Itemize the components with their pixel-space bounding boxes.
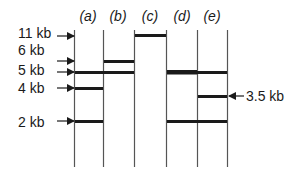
size-marker-right: 3.5 kb bbox=[229, 88, 284, 104]
lane-label-b: (b) bbox=[109, 8, 126, 24]
lane-lines bbox=[75, 30, 228, 167]
size-label-11kb: 11 kb bbox=[18, 25, 51, 41]
band-e-5kb bbox=[197, 71, 227, 74]
lane-label-a: (a) bbox=[79, 8, 96, 24]
band-ab-5kb bbox=[75, 71, 134, 74]
size-label-3-5kb: 3.5 kb bbox=[246, 88, 284, 104]
size-label-5kb: 5 kb bbox=[18, 62, 45, 78]
size-labels-left: 11 kb 6 kb 5 kb 4 kb 2 kb bbox=[18, 25, 51, 130]
band-a-4kb bbox=[75, 87, 103, 90]
size-label-6kb: 6 kb bbox=[18, 42, 45, 58]
band-c-11kb bbox=[135, 34, 166, 37]
bands bbox=[75, 34, 227, 123]
size-label-4kb: 4 kb bbox=[18, 80, 45, 96]
lane-labels: (a) (b) (c) (d) (e) bbox=[79, 8, 220, 24]
lane-label-e: (e) bbox=[203, 8, 220, 24]
lane-label-d: (d) bbox=[173, 8, 190, 24]
band-de-2kb bbox=[167, 120, 227, 123]
band-a-2kb bbox=[75, 120, 103, 123]
size-label-2kb: 2 kb bbox=[18, 114, 45, 130]
size-arrows-left bbox=[57, 36, 74, 121]
gel-diagram: (a) (b) (c) (d) (e) 11 kb 6 kb bbox=[0, 0, 301, 176]
band-e-3-5kb bbox=[198, 95, 227, 98]
band-b-6kb bbox=[104, 60, 134, 63]
band-d-5kb bbox=[167, 70, 197, 75]
lane-label-c: (c) bbox=[142, 8, 158, 24]
